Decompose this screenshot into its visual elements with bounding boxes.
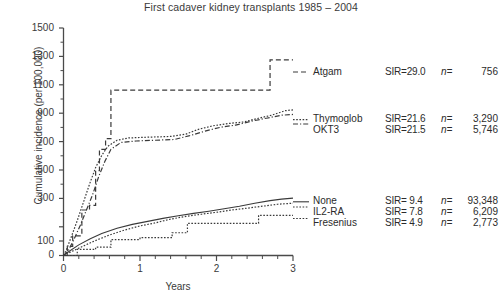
stat-nlabel-okt3: n= <box>441 124 452 135</box>
stat-sir-atgam: SIR=29.0 <box>385 66 425 77</box>
curve-label-none: None <box>313 195 337 206</box>
xtick-3: 3 <box>283 263 303 274</box>
x-axis-label: Years <box>63 281 293 292</box>
stat-n-thymoglob: 3,290 <box>452 113 498 124</box>
y-ticks <box>59 28 64 256</box>
x-ticks <box>64 256 294 262</box>
chart-figure: cumulative incidence of non-melanoma ski… <box>0 0 502 301</box>
data-curves <box>64 60 294 256</box>
curve-label-thymoglob: Thymoglob <box>313 113 362 124</box>
stat-nlabel-atgam: n= <box>441 66 452 77</box>
stat-n-fresenius: 2,773 <box>452 217 498 228</box>
curve-okt3 <box>64 114 294 255</box>
stat-nlabel-thymoglob: n= <box>441 113 452 124</box>
plot-canvas <box>0 0 502 301</box>
legend-connectors <box>293 72 309 219</box>
stat-sir-none: SIR= 9.4 <box>385 195 423 206</box>
y-axis-label: Cumulative incidence (per 100,000) <box>33 26 44 226</box>
stat-n-il2ra: 6,209 <box>452 206 498 217</box>
ytick-0: 0 <box>14 249 54 260</box>
curve-atgam <box>64 60 294 256</box>
ytick-100: 100 <box>14 235 54 246</box>
stat-nlabel-il2ra: n= <box>441 206 452 217</box>
curve-label-atgam: Atgam <box>313 66 342 77</box>
stat-sir-il2ra: SIR= 7.8 <box>385 206 423 217</box>
stat-n-atgam: 756 <box>452 66 498 77</box>
stat-nlabel-none: n= <box>441 195 452 206</box>
stat-nlabel-fresenius: n= <box>441 217 452 228</box>
xtick-0: 0 <box>54 263 74 274</box>
stat-n-okt3: 5,746 <box>452 124 498 135</box>
stat-sir-thymoglob: SIR=21.6 <box>385 113 425 124</box>
stat-sir-okt3: SIR=21.5 <box>385 124 425 135</box>
curve-label-fresenius: Fresenius <box>313 217 357 228</box>
curve-label-il2ra: IL2-RA <box>313 206 344 217</box>
xtick-2: 2 <box>207 263 227 274</box>
stat-sir-fresenius: SIR= 4.9 <box>385 217 423 228</box>
stat-n-none: 93,348 <box>452 195 498 206</box>
curve-thymoglob <box>64 110 294 256</box>
xtick-1: 1 <box>130 263 150 274</box>
curve-label-okt3: OKT3 <box>313 124 339 135</box>
